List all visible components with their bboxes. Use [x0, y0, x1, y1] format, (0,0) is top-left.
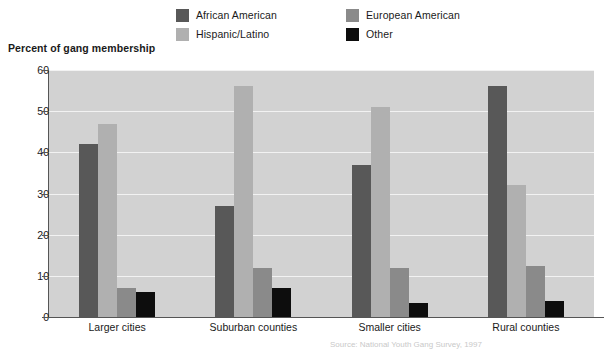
- bar-larger-cities-european-american: [117, 288, 136, 317]
- bar-rural-counties-hispanic-latino: [507, 185, 526, 317]
- bar-suburban-counties-other: [272, 288, 291, 317]
- gridline-50: [49, 111, 594, 112]
- legend-label-african-american: African American: [196, 10, 277, 21]
- legend-item-hispanic-latino: Hispanic/Latino: [176, 25, 346, 44]
- bar-suburban-counties-hispanic-latino: [234, 86, 253, 317]
- legend-swatch-other: [346, 28, 359, 41]
- legend-item-african-american: African American: [176, 6, 346, 25]
- legend-label-other: Other: [366, 29, 393, 40]
- bar-smaller-cities-other: [409, 303, 428, 317]
- bar-suburban-counties-african-american: [215, 206, 234, 317]
- bar-smaller-cities-african-american: [352, 165, 371, 317]
- y-tick-mark-50: [42, 111, 49, 112]
- bar-larger-cities-african-american: [79, 144, 98, 317]
- y-tick-mark-20: [42, 235, 49, 236]
- legend-swatch-african-american: [176, 9, 189, 22]
- chart-title: Percent of gang membership: [8, 42, 155, 54]
- gridline-40: [49, 152, 594, 153]
- legend-label-hispanic-latino: Hispanic/Latino: [196, 29, 269, 40]
- legend-item-other: Other: [346, 25, 506, 44]
- bar-larger-cities-hispanic-latino: [98, 124, 117, 317]
- plot-area: [49, 70, 594, 317]
- legend-label-european-american: European American: [366, 10, 460, 21]
- chart-footnote: Source: National Youth Gang Survey, 1997: [330, 340, 482, 349]
- chart-legend: African American European American Hispa…: [176, 6, 506, 44]
- legend-item-european-american: European American: [346, 6, 506, 25]
- bar-rural-counties-european-american: [526, 266, 545, 317]
- x-axis-line: [48, 317, 604, 318]
- bar-suburban-counties-european-american: [253, 268, 272, 317]
- bar-larger-cities-other: [136, 292, 155, 317]
- x-tick-label-larger-cities: Larger cities: [89, 322, 146, 333]
- legend-swatch-hispanic-latino: [176, 28, 189, 41]
- y-tick-mark-10: [42, 276, 49, 277]
- y-tick-mark-40: [42, 152, 49, 153]
- y-tick-mark-60: [42, 70, 49, 71]
- bar-rural-counties-other: [545, 301, 564, 317]
- x-axis-labels: Larger citiesSuburban countiesSmaller ci…: [49, 322, 594, 338]
- legend-swatch-european-american: [346, 9, 359, 22]
- x-tick-label-suburban-counties: Suburban counties: [210, 322, 298, 333]
- gridline-60: [49, 70, 594, 71]
- bar-rural-counties-african-american: [488, 86, 507, 317]
- bar-smaller-cities-european-american: [390, 268, 409, 317]
- y-axis: 0102030405060: [0, 70, 49, 318]
- x-tick-label-smaller-cities: Smaller cities: [358, 322, 420, 333]
- y-tick-mark-0: [42, 317, 49, 318]
- x-tick-label-rural-counties: Rural counties: [492, 322, 559, 333]
- bar-smaller-cities-hispanic-latino: [371, 107, 390, 317]
- y-tick-mark-30: [42, 194, 49, 195]
